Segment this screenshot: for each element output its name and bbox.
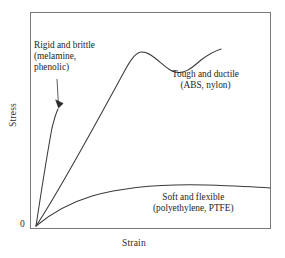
- annotation-rigid-line-1: Rigid and brittle: [34, 40, 95, 51]
- x-axis-label: Strain: [122, 238, 146, 248]
- plot-canvas: [0, 0, 285, 258]
- annotation-tough-and-ductile: Tough and ductile (ABS, nylon): [172, 69, 239, 91]
- y-axis-label: Stress: [8, 93, 18, 137]
- annotation-soft-and-flexible: Soft and flexible (polyethylene, PTFE): [153, 192, 234, 214]
- annotation-rigid-line-3: phenolic): [34, 62, 95, 73]
- origin-tick-label: 0: [20, 219, 25, 229]
- stress-strain-figure: Stress Strain 0 Rigid and brittle (melam…: [0, 0, 285, 258]
- annotation-rigid-and-brittle: Rigid and brittle (melamine, phenolic): [34, 40, 95, 74]
- annotation-tough-line-1: Tough and ductile: [172, 69, 239, 80]
- annotation-soft-line-1: Soft and flexible: [153, 192, 234, 203]
- annotation-soft-line-2: (polyethylene, PTFE): [153, 203, 234, 214]
- annotation-tough-line-2: (ABS, nylon): [172, 80, 239, 91]
- annotation-rigid-line-2: (melamine,: [34, 51, 95, 62]
